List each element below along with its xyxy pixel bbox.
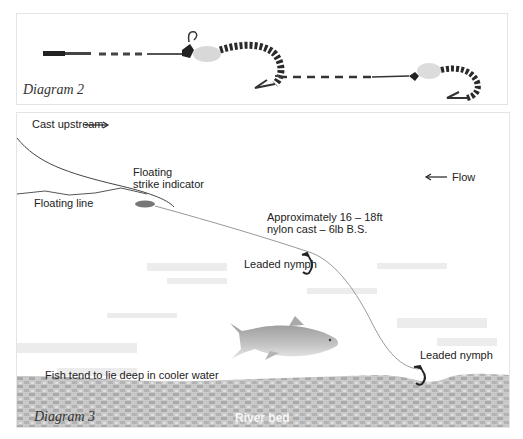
river-bed-label: River bed (235, 411, 290, 425)
floating-line (17, 188, 147, 195)
diagram-2-panel: Diagram 2 (16, 13, 508, 105)
nymph-fly-2-icon (409, 63, 478, 98)
diagram-2-caption: Diagram 2 (23, 82, 84, 98)
leaded-nymph-lower-label: Leaded nymph (420, 349, 493, 361)
diagram-3-caption: Diagram 3 (34, 409, 95, 425)
nymph-rig-illustration (17, 14, 509, 106)
leaded-nymph-upper-label: Leaded nymph (244, 258, 317, 270)
strike-indicator-label-2: strike indicator (133, 178, 204, 190)
strike-indicator-label-1: Floating (133, 166, 172, 178)
floating-line-label: Floating line (34, 197, 93, 209)
flow-arrow-icon (426, 174, 447, 180)
fish-note-label: Fish tend to lie deep in cooler water (45, 369, 219, 381)
cast-upstream-label: Cast upstream (32, 118, 104, 130)
cast-length-label-2: nylon cast – 6lb B.S. (267, 223, 367, 235)
fly-line-tip (43, 51, 65, 56)
trout-fish-icon (230, 316, 338, 360)
strike-indicator (135, 201, 155, 208)
flow-label: Flow (452, 171, 475, 183)
cast-length-label-1: Approximately 16 – 18ft (267, 211, 383, 223)
diagram-3-panel: Cast upstream Flow Floating strike indic… (16, 112, 510, 428)
nymph-fly-1-icon (182, 32, 281, 88)
